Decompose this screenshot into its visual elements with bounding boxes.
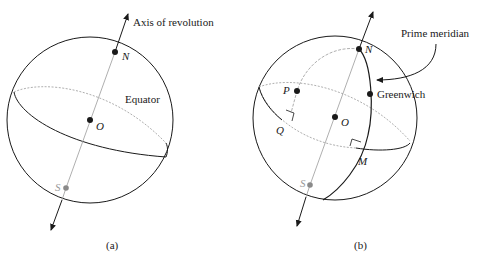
greenwich-label: Greenwich: [377, 88, 426, 100]
diagram-canvas: Axis of revolution Equator N O S (a): [0, 0, 487, 254]
label-s: S: [55, 181, 61, 193]
caption-b: (b): [354, 239, 367, 252]
prime-meridian-label: Prime meridian: [401, 27, 470, 39]
right-angle-m: [350, 139, 361, 146]
label-m: M: [357, 155, 368, 167]
label-n: N: [364, 43, 373, 55]
point-s: [63, 185, 69, 191]
axis-label: Axis of revolution: [133, 16, 214, 28]
label-p: P: [282, 84, 290, 96]
point-p: [294, 88, 300, 94]
meridian-p: [291, 48, 359, 113]
prime-meridian-pointer: [377, 44, 436, 80]
point-o: [332, 114, 338, 120]
right-angle-q: [286, 110, 294, 121]
caption-a: (a): [106, 239, 119, 252]
label-n: N: [121, 50, 130, 62]
point-o: [87, 117, 93, 123]
label-s: S: [300, 177, 306, 189]
label-q: Q: [276, 124, 284, 136]
label-o: O: [96, 120, 104, 132]
axis-bottom: [51, 200, 62, 230]
equator-left-edge: [259, 87, 282, 120]
figure-b: Prime meridian Greenwich N P Q O M S (b): [253, 12, 470, 252]
equator-label: Equator: [125, 93, 160, 105]
point-n: [356, 46, 362, 52]
label-o: O: [341, 116, 349, 128]
axis-top: [115, 14, 128, 52]
point-n: [112, 49, 118, 55]
axis-bottom: [297, 197, 306, 226]
point-greenwich: [367, 91, 373, 97]
figure-a: Axis of revolution Equator N O S (a): [7, 14, 214, 252]
point-s: [307, 182, 313, 188]
